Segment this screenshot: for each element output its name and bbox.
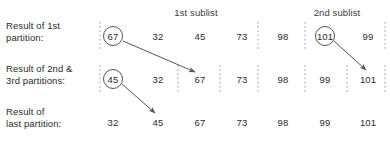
list-value: 73 xyxy=(237,117,248,128)
row-label-2: Result of 2nd & 3rd partitions: xyxy=(6,63,72,87)
sublist-header-1-label: 1st sublist xyxy=(174,7,217,18)
list-value: 98 xyxy=(278,74,289,85)
arrow-67 xyxy=(123,41,195,72)
row-label-2-line1: Result of 2nd & xyxy=(6,63,72,75)
sublist-header-2: 2nd sublist xyxy=(314,7,361,18)
sublist-header-1: 1st sublist xyxy=(174,7,217,18)
pivot-value: 67 xyxy=(108,31,119,42)
list-value: 73 xyxy=(237,74,248,85)
list-value: 32 xyxy=(153,31,164,42)
pivot-value: 101 xyxy=(317,31,333,42)
list-value: 32 xyxy=(153,74,164,85)
row-label-2-line2: 3rd partitions: xyxy=(6,75,72,87)
row-label-1: Result of 1st partition: xyxy=(6,20,60,44)
arrow-101 xyxy=(334,41,366,70)
list-value: 45 xyxy=(153,117,164,128)
list-value: 101 xyxy=(360,74,376,85)
list-value: 32 xyxy=(108,117,119,128)
list-value: 45 xyxy=(195,31,206,42)
sublist-header-2-label: 2nd sublist xyxy=(314,7,361,18)
list-value: 67 xyxy=(195,74,206,85)
row-label-3: Result of last partition: xyxy=(6,106,61,130)
list-value: 98 xyxy=(278,117,289,128)
pivot-value: 45 xyxy=(108,74,119,85)
row-label-3-line2: last partition: xyxy=(6,118,61,130)
list-value: 99 xyxy=(320,74,331,85)
diagram-canvas: 1st sublist 2nd sublist Result of 1st pa… xyxy=(0,0,390,151)
arrow-45 xyxy=(122,84,155,113)
list-value: 101 xyxy=(360,117,376,128)
row-label-3-line1: Result of xyxy=(6,106,61,118)
list-value: 73 xyxy=(237,31,248,42)
row-label-1-line1: Result of 1st xyxy=(6,20,60,32)
list-value: 99 xyxy=(320,117,331,128)
row-label-1-line2: partition: xyxy=(6,32,60,44)
list-value: 99 xyxy=(363,31,374,42)
list-value: 98 xyxy=(278,31,289,42)
list-value: 67 xyxy=(195,117,206,128)
